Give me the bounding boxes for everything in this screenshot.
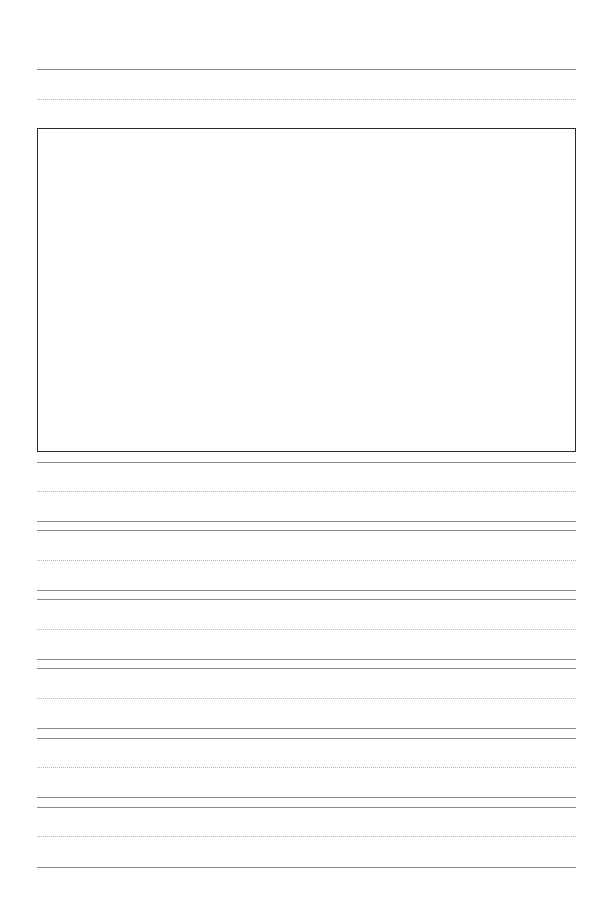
title-midline [37, 99, 576, 100]
row1-midline [37, 491, 576, 492]
row2-top-line [37, 530, 576, 531]
row1-baseline [37, 521, 576, 522]
row6-baseline [37, 867, 576, 868]
row6-top-line [37, 807, 576, 808]
row5-top-line [37, 738, 576, 739]
row5-baseline [37, 797, 576, 798]
row3-midline [37, 629, 576, 630]
row4-top-line [37, 668, 576, 669]
row2-midline [37, 560, 576, 561]
row4-midline [37, 698, 576, 699]
row4-baseline [37, 728, 576, 729]
row1-top-line [37, 462, 576, 463]
title-top-line [37, 69, 576, 70]
row6-midline [37, 836, 576, 837]
row5-midline [37, 767, 576, 768]
row3-top-line [37, 599, 576, 600]
row3-baseline [37, 659, 576, 660]
drawing-box[interactable] [37, 128, 576, 452]
row2-baseline [37, 590, 576, 591]
